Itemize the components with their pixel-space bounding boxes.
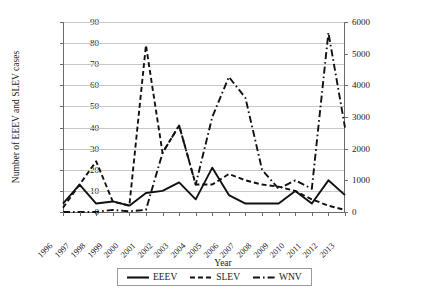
y-axis-right-tick-label: 1000 xyxy=(352,176,370,185)
legend-label: SLEV xyxy=(216,272,240,282)
x-axis-tick-label: 2005 xyxy=(185,241,203,259)
series-line-eeev xyxy=(63,168,345,206)
x-axis-tick-mark xyxy=(129,212,130,216)
x-axis-tick-mark xyxy=(279,212,280,216)
legend-entry-wnv[interactable]: WNV xyxy=(253,272,302,282)
x-axis-tick-label: 1997 xyxy=(53,241,71,259)
x-axis-tick-mark xyxy=(245,212,246,216)
x-axis-tick-mark xyxy=(312,212,313,216)
x-axis-tick-label: 2002 xyxy=(136,241,154,259)
y-axis-right-tick-label: 6000 xyxy=(352,18,370,27)
x-axis-tick-mark xyxy=(212,212,213,216)
y-axis-right-tick-label: 5000 xyxy=(352,50,370,59)
legend-entry-slev[interactable]: SLEV xyxy=(190,272,240,282)
y-axis-right-tick-mark xyxy=(345,54,348,55)
x-axis-tick-label: 2008 xyxy=(235,241,253,259)
y-axis-right-tick-mark xyxy=(345,22,348,23)
chart-legend: EEEVSLEVWNV xyxy=(117,268,312,286)
x-axis-tick-label: 2011 xyxy=(285,242,303,260)
x-axis-tick-label: 2012 xyxy=(302,241,320,259)
y-axis-right-tick-mark xyxy=(345,180,348,181)
x-axis-tick-label: 2013 xyxy=(318,241,336,259)
legend-label: WNV xyxy=(279,272,302,282)
x-axis-tick-label: 2003 xyxy=(152,241,170,259)
y-axis-right-tick-label: 0 xyxy=(352,208,357,217)
plot-area xyxy=(63,22,345,212)
x-axis-tick-mark xyxy=(146,212,147,216)
x-axis-tick-label: 2004 xyxy=(169,241,187,259)
x-axis-tick-mark xyxy=(196,212,197,216)
legend-entry-eeev[interactable]: EEEV xyxy=(127,272,177,282)
x-axis-tick-mark xyxy=(63,212,64,216)
x-axis-tick-mark xyxy=(328,212,329,216)
y-axis-right-tick-label: 2000 xyxy=(352,145,370,154)
y-axis-left-title: Number of EEEV and SLEV cases xyxy=(11,32,21,202)
y-axis-right-tick-mark xyxy=(345,149,348,150)
x-axis-tick-label: 1998 xyxy=(69,241,87,259)
legend-label: EEEV xyxy=(153,272,177,282)
x-axis-tick-mark xyxy=(295,212,296,216)
series-lines xyxy=(63,22,345,212)
dash-dot-line-icon xyxy=(253,273,275,282)
chart-figure: 0102030405060708090 01000200030004000500… xyxy=(0,0,446,298)
x-axis-tick-mark xyxy=(163,212,164,216)
x-axis-tick-mark xyxy=(80,212,81,216)
y-axis-right-tick-mark xyxy=(345,117,348,118)
x-axis-tick-label: 1999 xyxy=(86,241,104,259)
x-axis-tick-mark xyxy=(96,212,97,216)
x-axis-title: Year xyxy=(0,258,446,268)
y-axis-right-tick-mark xyxy=(345,85,348,86)
dashed-line-icon xyxy=(190,273,212,282)
x-axis-tick-label: 1996 xyxy=(36,241,54,259)
x-axis-tick-mark xyxy=(179,212,180,216)
x-axis-tick-label: 2007 xyxy=(219,241,237,259)
y-axis-right-tick-label: 3000 xyxy=(352,113,370,122)
x-axis-tick-label: 2009 xyxy=(252,241,270,259)
axis-line-bottom xyxy=(63,212,345,213)
x-axis-tick-label: 2001 xyxy=(119,241,137,259)
x-axis-tick-mark xyxy=(262,212,263,216)
x-axis-tick-mark xyxy=(345,212,346,216)
y-axis-right-tick-label: 4000 xyxy=(352,81,370,90)
x-axis-tick-mark xyxy=(113,212,114,216)
x-axis-tick-label: 2010 xyxy=(268,241,286,259)
x-axis-tick-mark xyxy=(229,212,230,216)
x-axis-tick-label: 2000 xyxy=(102,241,120,259)
solid-line-icon xyxy=(127,273,149,282)
